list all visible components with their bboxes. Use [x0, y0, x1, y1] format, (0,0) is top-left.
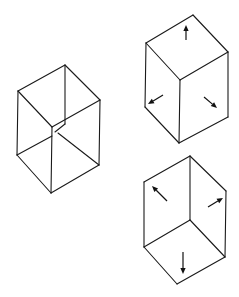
cube-edge: [17, 136, 52, 155]
arrow-up-icon: [183, 25, 188, 40]
necker-cube-figure: [0, 0, 239, 297]
cube-edge: [190, 220, 225, 257]
cube-edge: [146, 43, 180, 80]
convex-cube-with-outward-arrows: [145, 15, 228, 143]
cube-edge: [51, 165, 99, 193]
cube-edge: [17, 91, 18, 155]
cube-edge: [99, 100, 100, 165]
arrow-up-right-icon: [208, 198, 223, 207]
cube-edge: [55, 124, 65, 132]
cube-edge: [179, 117, 228, 143]
concave-cube-with-inward-arrows: [144, 156, 226, 284]
cube-edge: [52, 100, 100, 127]
cube-edge: [18, 91, 52, 127]
cube-edge: [58, 133, 99, 165]
arrow-down-right-icon: [204, 97, 217, 108]
cube-edge: [65, 65, 100, 100]
cube-edge: [145, 107, 179, 143]
cube-edge: [180, 52, 228, 80]
arrow-down-icon: [180, 252, 185, 274]
cube-edge: [18, 65, 65, 91]
cube-edge: [145, 43, 146, 107]
cube-edge: [17, 155, 51, 193]
necker-cube-wireframe: [17, 65, 100, 193]
cube-edge: [190, 156, 226, 191]
arrow-up-left-icon: [152, 186, 167, 201]
cube-edge: [144, 220, 190, 247]
cube-edge: [144, 156, 190, 182]
cube-edge: [193, 15, 228, 52]
cube-edge: [144, 247, 177, 284]
cube-edge: [179, 80, 180, 143]
cube-edge: [225, 191, 226, 257]
arrow-down-left-icon: [148, 95, 163, 104]
